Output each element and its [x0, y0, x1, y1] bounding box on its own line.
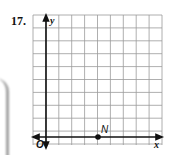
- y-axis-label: y: [49, 15, 55, 26]
- x-axis-label: x: [153, 139, 159, 150]
- coordinate-grid: N y x O: [0, 0, 170, 155]
- point-n: [95, 134, 101, 140]
- point-n-label: N: [101, 124, 109, 135]
- y-axis-up-arrow-icon: [44, 15, 49, 21]
- y-axis-down-arrow-icon: [44, 142, 49, 148]
- origin-label: O: [36, 139, 44, 150]
